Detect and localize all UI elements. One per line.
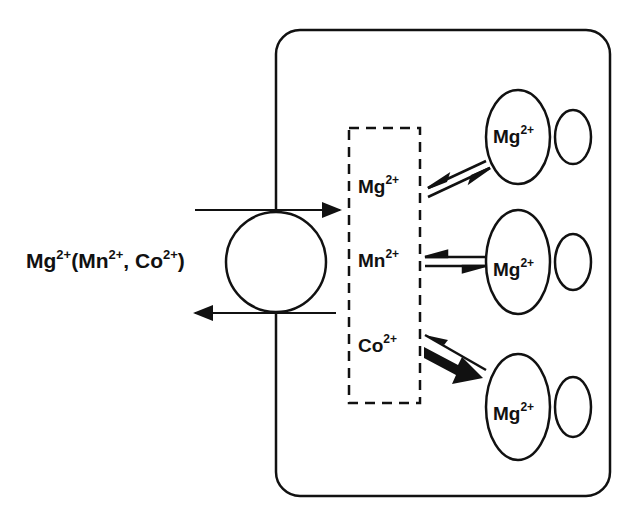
equilibrium-arrows-mg [428,161,490,197]
diagram-canvas: Mg2+(Mn2+, Co2+) Mg2+ Mn2+ Co2+ Mg2+ Mg2… [0,0,631,514]
binding-site-1: Mg2+ [486,90,591,184]
pool-ion-co: Co2+ [358,332,397,356]
binding-site-3: Mg2+ [486,354,591,460]
pool-ion-mg: Mg2+ [358,173,399,197]
pool-ion-mn: Mn2+ [358,247,399,271]
binding-site-2: Mg2+ [486,210,591,314]
equilibrium-arrows-co [424,335,486,384]
transporter [195,210,340,313]
equilibrium-arrows-mn [425,251,485,272]
external-ion-label: Mg2+(Mn2+, Co2+) [26,247,185,272]
